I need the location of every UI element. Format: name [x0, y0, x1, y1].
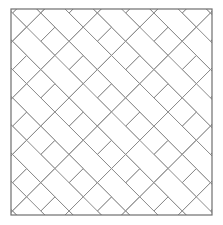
- screenshot-canvas: Herringbone Tile Pattern Square tiling d…: [0, 0, 223, 225]
- herringbone-pattern-figure: [0, 0, 223, 225]
